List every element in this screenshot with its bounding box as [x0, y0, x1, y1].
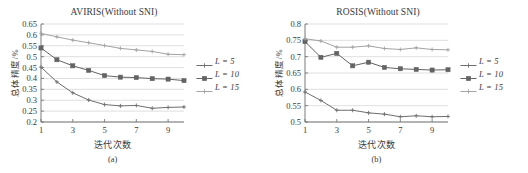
legend-label: L = 10 [479, 69, 503, 79]
y-tick-label: 0.65 [22, 19, 37, 29]
y-axis-label-a: 总体精度/% [8, 49, 20, 97]
data-point-marker [71, 38, 75, 42]
data-point-marker [182, 53, 186, 57]
data-point-marker [319, 55, 323, 59]
data-point-marker [351, 64, 355, 68]
x-axis-label-a: 迭代次数 [94, 138, 132, 151]
legend-swatch-icon [196, 69, 213, 78]
figure-two-panel-line-charts: AVIRIS(Without SNI) 0.20.250.30.350.40.4… [0, 0, 528, 173]
y-tick-label: 0.35 [22, 84, 37, 94]
data-point-marker [335, 45, 339, 49]
data-point-marker [39, 46, 43, 50]
x-tick-label: 7 [134, 125, 138, 135]
data-point-marker [103, 44, 107, 48]
x-tick-label: 9 [166, 125, 170, 135]
data-point-marker [134, 103, 138, 107]
y-tick-label: 0.45 [22, 63, 37, 73]
chart-panel-a: AVIRIS(Without SNI) 0.20.250.30.350.40.4… [0, 0, 264, 173]
data-point-marker [319, 39, 323, 43]
data-point-marker [367, 111, 371, 115]
data-point-marker [398, 67, 402, 71]
data-point-marker [71, 64, 75, 68]
data-point-marker [55, 35, 59, 39]
legend-a: L = 5L = 10L = 15 [196, 56, 239, 91]
data-point-marker [414, 114, 418, 118]
data-point-marker [166, 77, 170, 81]
y-axis-label-b: 总体精度/% [272, 49, 284, 97]
data-point-marker [182, 105, 186, 109]
legend-label: L = 10 [215, 69, 239, 79]
data-point-marker [398, 115, 402, 119]
y-tick-label: 0.55 [22, 41, 37, 51]
data-point-marker [134, 75, 138, 79]
y-tick-label: 0.75 [286, 35, 301, 45]
data-point-marker [382, 65, 386, 69]
data-point-marker [166, 105, 170, 109]
data-point-marker [382, 47, 386, 51]
legend-item: L = 10 [460, 69, 503, 78]
data-point-marker [150, 106, 154, 110]
series-line-2 [41, 33, 184, 54]
y-tick-label: 0.25 [22, 106, 37, 116]
data-point-marker [335, 51, 339, 55]
data-point-marker [166, 52, 170, 56]
legend-b: L = 5L = 10L = 15 [460, 56, 503, 91]
y-tick-label: 0.55 [286, 101, 301, 111]
legend-label: L = 15 [479, 82, 503, 92]
x-tick-label: 1 [39, 125, 43, 135]
x-tick-label: 3 [71, 125, 75, 135]
legend-swatch-icon [460, 82, 477, 91]
y-tick-label: 0.5 [26, 52, 37, 62]
data-point-marker [134, 48, 138, 52]
legend-item: L = 5 [460, 56, 503, 65]
data-point-marker [446, 114, 450, 118]
legend-label: L = 5 [479, 56, 499, 66]
data-point-marker [430, 68, 434, 72]
data-point-marker [414, 67, 418, 71]
data-point-marker [398, 47, 402, 51]
series-line-1 [305, 42, 448, 70]
x-tick-label: 5 [366, 125, 370, 135]
y-tick-label: 0.4 [26, 73, 37, 83]
data-point-marker [303, 90, 307, 94]
data-point-marker [102, 74, 106, 78]
data-point-marker [103, 103, 107, 107]
y-tick-label: 0.3 [26, 95, 37, 105]
data-point-marker [446, 48, 450, 52]
data-point-marker [351, 45, 355, 49]
data-point-marker [382, 112, 386, 116]
data-point-marker [366, 60, 370, 64]
data-point-marker [150, 49, 154, 53]
x-axis-label-b: 迭代次数 [358, 138, 396, 151]
chart-panel-b: ROSIS(Without SNI) 0.50.550.60.650.70.75… [264, 0, 528, 173]
legend-item: L = 15 [196, 82, 239, 91]
panel-caption-b: (b) [372, 154, 382, 164]
legend-label: L = 15 [215, 82, 239, 92]
data-point-marker [414, 46, 418, 50]
data-point-marker [351, 108, 355, 112]
data-point-marker [446, 68, 450, 72]
legend-item: L = 5 [196, 56, 239, 65]
legend-swatch-icon [460, 69, 477, 78]
data-point-marker [87, 41, 91, 45]
x-tick-label: 3 [335, 125, 339, 135]
y-tick-label: 0.7 [290, 52, 301, 62]
legend-label: L = 5 [215, 56, 235, 66]
legend-swatch-icon [196, 82, 213, 91]
data-point-marker [430, 47, 434, 51]
x-tick-label: 7 [398, 125, 402, 135]
x-tick-label: 9 [430, 125, 434, 135]
data-point-marker [150, 77, 154, 81]
data-point-marker [87, 68, 91, 72]
data-point-marker [87, 98, 91, 102]
data-point-marker [182, 79, 186, 83]
series-line-0 [41, 67, 184, 108]
legend-item: L = 15 [460, 82, 503, 91]
legend-swatch-icon [196, 56, 213, 65]
x-tick-label: 5 [102, 125, 106, 135]
y-tick-label: 0.65 [286, 68, 301, 78]
data-point-marker [55, 58, 59, 62]
data-point-marker [118, 46, 122, 50]
y-tick-label: 0.6 [290, 84, 301, 94]
series-line-0 [305, 92, 448, 117]
